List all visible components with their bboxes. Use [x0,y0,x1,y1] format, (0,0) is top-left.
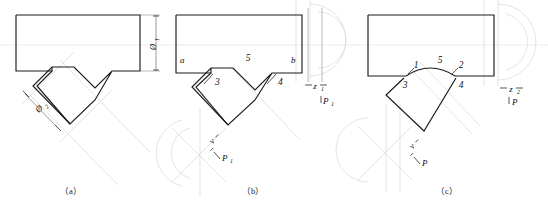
vector-P-lower-label-c: P [421,158,428,168]
point-label-3-b: 3 [214,77,220,87]
diameter-2-symbol: Ø [32,103,45,116]
workpiece-notch-b [196,73,228,125]
caption-panel-a: （a） [60,186,82,196]
workpiece-outline-a-left [16,15,52,71]
workpiece-outline-c-left [368,15,406,76]
point-label-2-c: 2 [459,60,464,70]
diameter-1-symbol: Ø [148,43,158,51]
point-label-1-c: 1 [414,60,419,70]
workpiece-notch-a [37,71,70,124]
vector-v-label-c: v [407,141,417,151]
point-label-4-b: 4 [278,77,283,87]
vector-P-subscript-b: 1 [331,101,334,107]
point-label-a-b: a [180,55,185,65]
vector-z1-b: z 1 [305,8,327,92]
dimension-diameter-1-a: Ø 1 [140,15,160,71]
vector-P-lower-subscript-b: 1 [230,158,233,164]
caption-panel-c: （c） [436,186,458,196]
watermark-artwork-panel-b [156,0,360,196]
point-label-b-b: b [291,55,296,65]
vector-v-label-b: v [207,136,217,146]
dimension-diameter-2-a: Ø 2 [23,91,61,131]
vector-z-subscript-c: 2 [517,89,520,95]
vector-P-label-c: P [511,97,518,107]
caption-panel-b: （b） [242,186,264,196]
engineering-diagram: Ø 1 Ø 2 （a） a 5 b [0,0,548,212]
vector-z2-c: z 2 [500,84,523,95]
diameter-2-subscript: 2 [44,103,50,109]
figure-container: Ø 1 Ø 2 （a） a 5 b [0,0,548,212]
vector-P-lower-c: P [414,157,428,168]
vector-P1-lower-b: P 1 [214,152,233,164]
workpiece-outline-c [368,15,494,76]
point-label-5-c: 5 [438,55,443,65]
vector-P-c: P [509,97,518,107]
vector-z-subscript-b: 1 [321,86,324,92]
vector-z-label-b: z [312,81,317,91]
diameter-1-subscript: 1 [154,38,160,41]
point-label-5-b: 5 [246,53,251,63]
watermark-artwork-panel-a [0,45,183,185]
vector-v-c: v [403,136,423,156]
panel-a: Ø 1 Ø 2 （a） [16,15,160,196]
workpiece-notch-c [386,78,456,131]
point-label-3-c: 3 [402,80,408,90]
vector-P-label-b: P [322,96,329,106]
vector-v-b: v [203,131,223,151]
vector-z-label-c: z [508,84,513,94]
vector-P1-b: P 1 [321,96,334,107]
workpiece-outline-b [176,15,302,125]
vector-P-lower-label-b: P [221,153,228,163]
point-label-4-c: 4 [459,80,464,90]
